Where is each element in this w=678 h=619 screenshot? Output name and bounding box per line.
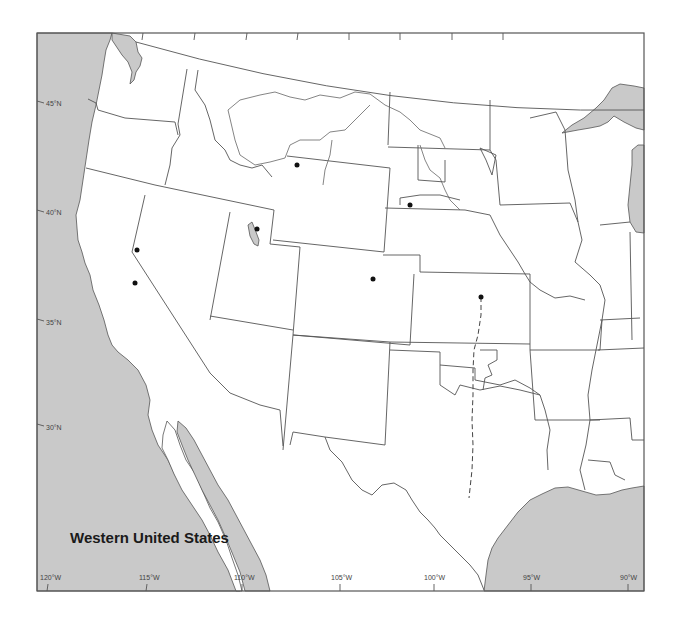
lat-label-35: 35°N bbox=[46, 319, 62, 326]
lat-label-45: 45°N bbox=[46, 100, 62, 107]
lon-label-110: 110°W bbox=[234, 574, 255, 581]
point-kansas bbox=[479, 295, 484, 300]
lon-label-105: 105°W bbox=[331, 574, 352, 581]
lon-label-100: 100°W bbox=[424, 574, 445, 581]
lat-label-40: 40°N bbox=[46, 209, 62, 216]
map-title: Western United States bbox=[70, 529, 229, 546]
lon-label-120: 120°W bbox=[40, 574, 61, 581]
point-great-salt-lake bbox=[255, 227, 260, 232]
dashed-route bbox=[469, 297, 481, 498]
puget-sound bbox=[112, 33, 142, 84]
point-nevada-north bbox=[135, 248, 140, 253]
lon-label-95: 95°W bbox=[523, 574, 541, 581]
lon-label-90: 90°W bbox=[620, 574, 638, 581]
point-nebraska-north bbox=[408, 203, 413, 208]
rivers bbox=[228, 92, 460, 210]
lake-michigan bbox=[628, 145, 644, 233]
lake-superior bbox=[562, 84, 644, 133]
top-ticks bbox=[142, 33, 503, 40]
western-us-map: 45°N 40°N 35°N 30°N 120°W 115°W 110°W 10… bbox=[0, 0, 678, 619]
minor-boundaries bbox=[400, 145, 497, 390]
point-wyoming-northwest bbox=[295, 163, 300, 168]
lat-label-30: 30°N bbox=[46, 424, 62, 431]
point-nevada-south bbox=[133, 281, 138, 286]
point-colorado bbox=[371, 277, 376, 282]
location-points bbox=[133, 163, 484, 300]
great-salt-lake bbox=[248, 222, 259, 246]
lon-label-115: 115°W bbox=[139, 574, 160, 581]
